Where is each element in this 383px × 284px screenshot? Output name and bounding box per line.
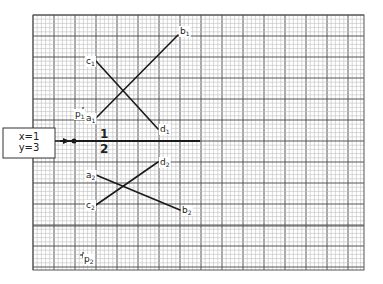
diagram-canvas: a1b1c1d1a2b2c2d2 12 x=1y=3 p1p2 [0,0,383,284]
number-line: 12 [60,127,200,156]
axis-label-bottom: 2 [100,142,108,156]
input-box-line-2: y=3 [19,142,40,153]
start-dot [72,139,77,144]
axis-label-top: 1 [100,127,108,141]
input-box-line-1: x=1 [19,131,40,142]
graph-paper-grid [33,15,364,270]
